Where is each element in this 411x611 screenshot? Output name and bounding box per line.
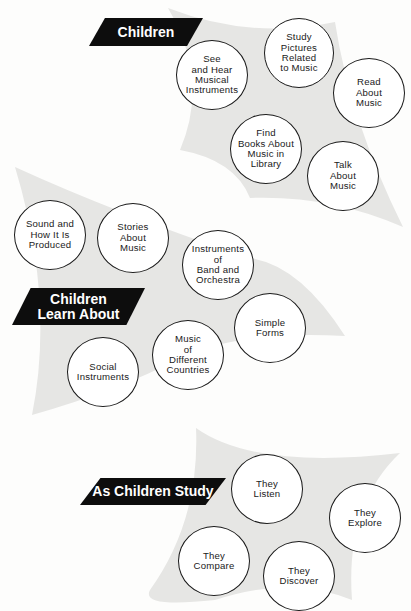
bubble-they-compare: They Compare [178,526,250,596]
bubble-talk-about-music: Talk About Music [307,141,379,211]
bubble-find-books: Find Books About Music in Library [230,114,302,184]
bubble-sound-production: Sound and How It Is Produced [14,200,86,270]
bubble-music-different-countries: Music of Different Countries [152,320,224,390]
banner-children-learn-about: Children Learn About [12,288,145,325]
banner-children: Children [89,18,203,46]
bubble-see-and-hear-instruments: See and Hear Musical Instruments [176,40,248,110]
bubble-they-explore: They Explore [329,483,401,553]
bubble-they-discover: They Discover [263,541,335,611]
bubble-band-orchestra-instruments: Instruments of Band and Orchestra [182,230,254,300]
bubble-simple-forms: Simple Forms [234,293,306,363]
bubble-stories-about-music: Stories About Music [97,203,169,273]
banner-as-children-study: As Children Study [80,478,226,505]
bubble-read-about-music: Read About Music [333,58,405,128]
bubble-study-pictures: Study Pictures Related to Music [264,18,334,88]
bubble-they-listen: They Listen [231,454,303,524]
bubble-social-instruments: Social Instruments [67,337,139,407]
